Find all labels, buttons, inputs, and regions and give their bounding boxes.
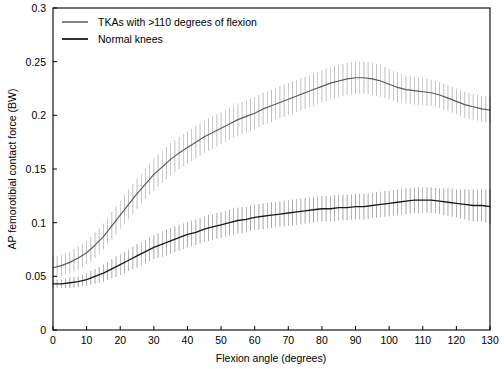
x-tick-label: 90 [350,334,362,346]
x-tick-labels: 0102030405060708090100110120130 [50,334,499,346]
errorbar-group [53,187,490,288]
x-tick-label: 80 [316,334,328,346]
y-tick-label: 0.05 [26,270,47,282]
legend-item-label: Normal knees [98,33,163,45]
chart-legend: TKAs with >110 degrees of flexionNormal … [62,16,257,45]
y-tick-label: 0.15 [26,163,47,175]
y-tick-label: 0 [40,324,46,336]
y-tick-label: 0.2 [31,109,46,121]
x-tick-label: 10 [81,334,93,346]
chart-figure: 0102030405060708090100110120130 00.050.1… [0,0,504,369]
x-tick-label: 40 [182,334,194,346]
x-tick-label: 30 [148,334,160,346]
y-tick-label: 0.1 [31,217,46,229]
legend-item-label: TKAs with >110 degrees of flexion [98,16,257,28]
x-tick-label: 120 [448,334,466,346]
x-tick-label: 50 [215,334,227,346]
x-tick-label: 20 [114,334,126,346]
errorbars-layer [53,62,490,288]
y-tick-labels: 00.050.10.150.20.250.3 [26,2,47,336]
x-tick-label: 130 [481,334,499,346]
axes-frame [53,8,490,330]
errorbar-group [53,62,490,279]
series-line [53,78,490,268]
x-tick-label: 0 [50,334,56,346]
x-tick-label: 100 [380,334,398,346]
chart-canvas: 0102030405060708090100110120130 00.050.1… [0,0,504,369]
axis-ticks-layer [53,8,490,330]
x-tick-label: 60 [249,334,261,346]
x-axis-title: Flexion angle (degrees) [216,352,326,364]
y-tick-label: 0.25 [26,56,47,68]
x-tick-label: 70 [282,334,294,346]
y-axis-title: AP femorotibial contact force (BW) [6,89,18,250]
y-tick-label: 0.3 [31,2,46,14]
x-tick-label: 110 [414,334,431,346]
